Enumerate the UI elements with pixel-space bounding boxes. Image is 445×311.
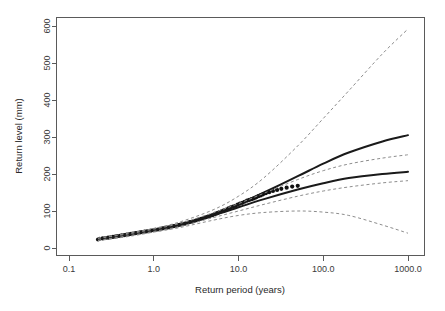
y-tick-label-0: 0: [42, 245, 52, 250]
data-series-layer: [96, 29, 408, 242]
y-axis-ticks: [52, 26, 57, 248]
y-axis-title: Return level (mm): [13, 98, 24, 174]
x-axis-tick-labels: 0.11.010.0100.01000.0: [63, 264, 422, 274]
return-level-figure: 0.11.010.0100.01000.0 010020030040050060…: [0, 0, 445, 311]
x-axis-title: Return period (years): [195, 284, 285, 295]
x-tick-label-0: 0.1: [63, 264, 76, 274]
series-2: [98, 172, 408, 239]
y-tick-label-2: 200: [42, 166, 52, 181]
fitted-return-level-line: [98, 135, 408, 239]
y-axis-tick-labels: 0100200300400500600: [42, 18, 52, 250]
confidence-band-line: [98, 211, 408, 241]
x-axis-ticks: [69, 256, 408, 261]
fitted-return-level-line: [98, 172, 408, 239]
series-0: [96, 184, 300, 242]
y-tick-label-6: 600: [42, 18, 52, 33]
data-point: [285, 186, 289, 190]
plot-frame: [57, 18, 425, 256]
x-tick-label-4: 1000.0: [394, 264, 422, 274]
x-tick-label-3: 100.0: [312, 264, 335, 274]
series-1: [98, 135, 408, 239]
data-point: [296, 184, 300, 188]
y-tick-label-4: 400: [42, 92, 52, 107]
y-tick-label-3: 300: [42, 129, 52, 144]
x-tick-label-2: 10.0: [230, 264, 248, 274]
y-tick-label-5: 500: [42, 55, 52, 70]
plot-canvas: 0.11.010.0100.01000.0 010020030040050060…: [0, 0, 445, 311]
series-6: [98, 211, 408, 241]
y-tick-label-1: 100: [42, 203, 52, 218]
data-point: [290, 184, 294, 188]
data-point: [279, 187, 283, 191]
x-tick-label-1: 1.0: [147, 264, 160, 274]
